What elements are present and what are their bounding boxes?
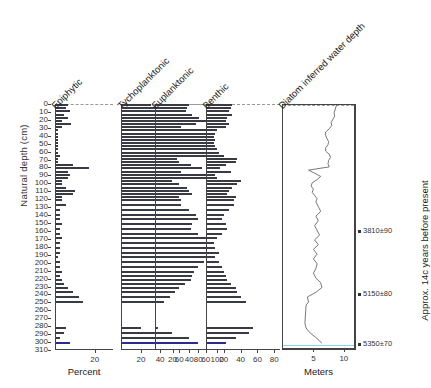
bar (207, 110, 229, 112)
bar (56, 196, 62, 198)
bar (156, 187, 158, 189)
bar (56, 337, 60, 339)
bar (56, 287, 68, 289)
bar (156, 167, 159, 169)
bar (156, 218, 158, 220)
water-depth-curve (283, 105, 356, 351)
y-tick-mark (48, 175, 51, 176)
y-tick-mark (48, 112, 51, 113)
panel-epiphytic: 20 (55, 104, 113, 350)
bar (156, 271, 158, 273)
bar (207, 337, 236, 339)
bar (156, 123, 196, 125)
bar (156, 228, 158, 230)
y-tick-mark (48, 231, 51, 232)
bar (207, 145, 215, 147)
y-tick-mark (48, 334, 51, 335)
y-tick-label: 310 (14, 346, 48, 354)
bar (122, 327, 141, 329)
bar (56, 266, 60, 268)
bar (156, 196, 158, 198)
bar (156, 148, 158, 150)
bar (56, 247, 60, 249)
bar (56, 283, 64, 285)
bar (56, 301, 83, 303)
y-tick-mark (48, 350, 51, 351)
x-tick-label: 40 (236, 355, 245, 364)
bar (156, 164, 161, 166)
bar (156, 275, 158, 277)
bar (56, 199, 62, 201)
bar (156, 279, 158, 281)
y-tick-mark (48, 279, 51, 280)
bar (156, 117, 199, 119)
y-tick-mark (48, 223, 51, 224)
panel-diatom-inferred-water-depth: 510 (282, 104, 355, 350)
y-tick-mark (48, 342, 51, 343)
x-tick-label: 60 (201, 355, 210, 364)
bar (156, 171, 158, 173)
bar (156, 291, 158, 293)
bar (56, 332, 64, 334)
x-tick-mark (224, 350, 225, 353)
bar (207, 171, 231, 173)
bar (207, 242, 214, 244)
bar (56, 193, 73, 195)
x-tick-label: 20 (137, 355, 146, 364)
bar (207, 233, 222, 235)
date-label: 3810±90 (363, 226, 392, 235)
bar (156, 129, 158, 131)
x-tick-mark (173, 350, 174, 353)
bar (56, 164, 73, 166)
bar (207, 152, 219, 154)
bar (207, 275, 226, 277)
basal-bar (156, 342, 158, 344)
y-tick-mark (48, 215, 51, 216)
bar (56, 174, 70, 176)
bar (207, 193, 227, 195)
bar (56, 126, 62, 128)
bar (207, 133, 215, 135)
bar (56, 155, 60, 157)
bar (207, 218, 222, 220)
bar (56, 142, 58, 144)
bar (156, 199, 158, 201)
bar (207, 114, 232, 116)
bar (56, 252, 60, 254)
bar (56, 223, 62, 225)
y-tick-mark (48, 287, 51, 288)
bar (207, 296, 241, 298)
panel-title: Diatom inferred water depth (276, 20, 367, 111)
bar (156, 155, 158, 157)
x-tick-mark (198, 350, 199, 353)
bar (56, 120, 62, 122)
bar (56, 133, 58, 135)
bar (207, 148, 217, 150)
bar (56, 110, 70, 112)
bar (156, 174, 158, 176)
bar (156, 142, 158, 144)
bar (56, 261, 60, 263)
bar (207, 237, 217, 239)
y-tick-mark (48, 302, 51, 303)
bar (156, 247, 158, 249)
bar (56, 117, 68, 119)
x-tick-mark (160, 350, 161, 353)
bar (207, 247, 215, 249)
bar (156, 152, 158, 154)
bar (156, 283, 158, 285)
bar (156, 110, 186, 112)
bar (56, 256, 58, 258)
bar (56, 123, 71, 125)
bar (56, 136, 58, 138)
bar (156, 237, 158, 239)
bar (156, 193, 158, 195)
bar (56, 242, 60, 244)
bar (207, 123, 229, 125)
x-axis-line (207, 349, 280, 350)
y-tick-mark (48, 199, 51, 200)
y-tick-mark (48, 247, 51, 248)
bar (156, 136, 158, 138)
bar (156, 327, 158, 329)
bar (207, 332, 249, 334)
